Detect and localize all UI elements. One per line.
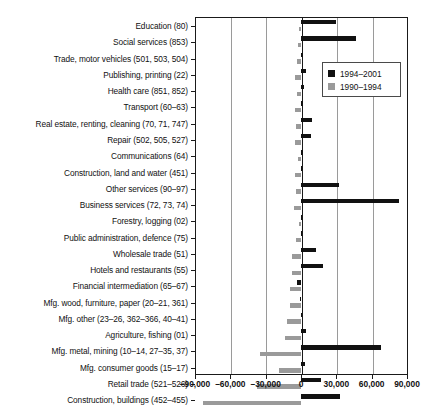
bar-series1 — [301, 231, 302, 235]
bar-series1 — [301, 53, 303, 57]
category-label: Construction, buildings (452–455) — [67, 395, 188, 405]
category-label: Repair (502, 505, 527) — [107, 135, 188, 145]
bar-row: Real estate, renting, cleaning (70, 71, … — [195, 116, 408, 132]
legend-item: 1990–1994 — [328, 80, 395, 93]
bar-series2 — [297, 59, 301, 63]
bar-series1 — [301, 215, 302, 219]
category-label: Trade, motor vehicles (501, 503, 504) — [54, 54, 188, 64]
bar-row: Public administration, defence (75) — [195, 229, 408, 245]
axis-tick — [191, 286, 195, 287]
x-axis-tick-label: –90,000 — [180, 379, 210, 389]
bar-series2 — [296, 189, 301, 193]
legend-item: 1994–2001 — [328, 67, 395, 80]
bar-row: Financial intermediation (65–67) — [195, 278, 408, 294]
bar-series2 — [203, 401, 301, 405]
category-label: Communications (64) — [111, 151, 188, 161]
axis-tick — [191, 42, 195, 43]
axis-tick — [191, 368, 195, 369]
category-label: Social services (853) — [113, 37, 188, 47]
axis-tick — [191, 335, 195, 336]
bar-series2 — [296, 238, 301, 242]
bar-series2 — [279, 368, 301, 372]
axis-tick — [191, 140, 195, 141]
category-label: Mfg. wood, furniture, paper (20–21, 361) — [43, 298, 188, 308]
bar-series2 — [299, 222, 301, 226]
category-label: Business services (72, 73, 74) — [80, 200, 188, 210]
bar-series1 — [301, 329, 306, 333]
category-label: Real estate, renting, cleaning (70, 71, … — [36, 119, 188, 129]
axis-tick — [191, 173, 195, 174]
x-axis: –90,000–60,000–30,000030,00060,00090,000 — [195, 379, 408, 393]
bar-series1 — [301, 118, 312, 122]
bar-series2 — [287, 319, 301, 323]
axis-tick — [191, 205, 195, 206]
bar-series2 — [297, 92, 301, 96]
legend-swatch-icon — [328, 83, 335, 90]
bar-row: Other services (90–97) — [195, 181, 408, 197]
bar-series2 — [298, 157, 301, 161]
category-label: Mfg. other (23–26, 362–366, 40–41) — [59, 314, 188, 324]
category-label: Mfg. metal, mining (10–14, 27–35, 37) — [51, 346, 188, 356]
bar-series1 — [301, 85, 304, 89]
axis-tick — [191, 270, 195, 271]
bar-series1 — [301, 345, 381, 349]
category-label: Publishing, printing (22) — [103, 70, 188, 80]
legend-label: 1994–2001 — [340, 69, 382, 79]
axis-tick — [191, 26, 195, 27]
category-label: Other services (90–97) — [106, 184, 188, 194]
legend-swatch-icon — [328, 70, 335, 77]
bar-row: Mfg. consumer goods (15–17) — [195, 360, 408, 376]
bar-series1 — [301, 134, 311, 138]
bar-row: Business services (72, 73, 74) — [195, 197, 408, 213]
bar-series1 — [301, 20, 336, 24]
bar-series2 — [298, 43, 301, 47]
x-axis-tick-label: –60,000 — [215, 379, 245, 389]
bar-series1 — [301, 248, 316, 252]
category-label: Hotels and restaurants (55) — [90, 265, 188, 275]
category-label: Financial intermediation (65–67) — [73, 281, 188, 291]
bar-series2 — [290, 303, 301, 307]
bar-series1 — [301, 394, 340, 398]
bar-row: Hotels and restaurants (55) — [195, 262, 408, 278]
bar-series2 — [296, 124, 301, 128]
axis-tick — [191, 238, 195, 239]
axis-tick — [191, 400, 195, 401]
bar-series2 — [294, 206, 301, 210]
bar-series2 — [260, 352, 301, 356]
x-axis-tick-label: 60,000 — [359, 379, 385, 389]
bar-series2 — [295, 173, 301, 177]
bar-series1 — [301, 101, 303, 105]
axis-tick — [191, 75, 195, 76]
bar-series1 — [301, 313, 302, 317]
category-label: Public administration, defence (75) — [64, 233, 188, 243]
figure-panel: Education (80)Social services (853)Trade… — [0, 0, 429, 414]
bar-series2 — [299, 27, 301, 31]
bar-series2 — [290, 287, 301, 291]
bar-series1 — [301, 36, 356, 40]
bar-row: Mfg. metal, mining (10–14, 27–35, 37) — [195, 343, 408, 359]
bar-series1 — [301, 183, 339, 187]
bar-series1 — [301, 362, 305, 366]
bar-series1 — [301, 150, 303, 154]
axis-tick — [191, 124, 195, 125]
axis-tick — [191, 189, 195, 190]
bar-row: Wholesale trade (51) — [195, 246, 408, 262]
axis-tick — [191, 156, 195, 157]
category-label: Mfg. consumer goods (15–17) — [80, 363, 188, 373]
bar-series1 — [297, 280, 301, 284]
bar-row: Construction, buildings (452–455) — [195, 392, 408, 408]
bar-series2 — [292, 271, 301, 275]
x-axis-tick-label: 0 — [299, 379, 304, 389]
category-label: Education (80) — [135, 21, 188, 31]
x-axis-tick-label: 90,000 — [394, 379, 420, 389]
category-label: Transport (60–63) — [124, 102, 188, 112]
x-axis-tick-label: 30,000 — [324, 379, 350, 389]
bar-row: Transport (60–63) — [195, 99, 408, 115]
bar-row: Education (80) — [195, 18, 408, 34]
bar-row: Forestry, logging (02) — [195, 213, 408, 229]
category-label: Agriculture, fishing (01) — [105, 330, 188, 340]
bar-row: Construction, land and water (451) — [195, 164, 408, 180]
category-label: Construction, land and water (451) — [64, 168, 188, 178]
bar-row: Mfg. wood, furniture, paper (20–21, 361) — [195, 295, 408, 311]
bar-series2 — [295, 140, 301, 144]
